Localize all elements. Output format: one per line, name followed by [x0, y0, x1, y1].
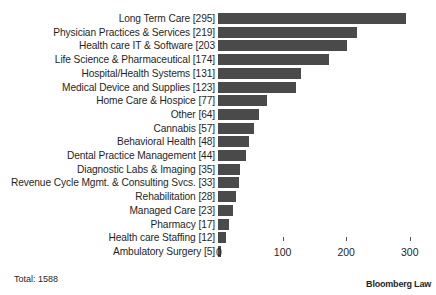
category-label: Revenue Cycle Mgmt. & Consulting Svcs. […	[11, 176, 215, 189]
x-axis-tick-label: 300	[401, 246, 419, 258]
bar	[218, 123, 254, 134]
bar-row: Physician Practices & Services [219]	[0, 27, 436, 38]
bar-row: Dental Practice Management [44]	[0, 150, 436, 161]
category-label: Dental Practice Management [44]	[67, 149, 215, 162]
bar-row: Managed Care [23]	[0, 205, 436, 216]
bar	[218, 219, 229, 230]
category-label: Health care Staffing [12]	[108, 231, 215, 244]
bar	[218, 82, 296, 93]
category-label: Life Science & Pharmaceutical [174]	[55, 53, 215, 66]
bar	[218, 191, 236, 202]
category-label: Pharmacy [17]	[151, 218, 215, 231]
category-label: Long Term Care [295]	[119, 12, 215, 25]
bar	[218, 150, 246, 161]
category-label: Behavioral Health [48]	[117, 135, 215, 148]
bar-row: Home Care & Hospice [77]	[0, 95, 436, 106]
bar-chart: Long Term Care [295]Physician Practices …	[0, 0, 436, 295]
bar-row: Other [64]	[0, 109, 436, 120]
x-axis-tick-label: 100	[274, 246, 292, 258]
bar	[218, 164, 240, 175]
bar	[218, 54, 329, 65]
bar	[218, 232, 226, 243]
category-label: Diagnostic Labs & Imaging [35]	[77, 163, 215, 176]
bar	[218, 109, 259, 120]
total-count: Total: 1588	[14, 274, 58, 284]
category-label: Hospital/Health Systems [131]	[81, 67, 215, 80]
category-label: Ambulatory Surgery [5]	[113, 245, 215, 258]
category-label: Medical Device and Supplies [123]	[62, 81, 215, 94]
bar	[218, 177, 239, 188]
x-axis-tick-label: 0	[216, 246, 222, 258]
bar-row: Health care IT & Software [203	[0, 40, 436, 51]
category-label: Managed Care [23]	[129, 204, 215, 217]
bar	[218, 68, 301, 79]
category-label: Physician Practices & Services [219]	[53, 26, 215, 39]
x-axis-tick	[410, 237, 411, 241]
bar	[218, 95, 267, 106]
bar-row: Behavioral Health [48]	[0, 136, 436, 147]
bar-row: Rehabilitation [28]	[0, 191, 436, 202]
bar	[218, 205, 233, 216]
bar	[218, 40, 347, 51]
bar-row: Revenue Cycle Mgmt. & Consulting Svcs. […	[0, 177, 436, 188]
category-label: Health care IT & Software [203	[79, 39, 215, 52]
category-label: Other [64]	[171, 108, 215, 121]
bar-row: Cannabis [57]	[0, 123, 436, 134]
bar-row: Medical Device and Supplies [123]	[0, 82, 436, 93]
bar-row: Health care Staffing [12]	[0, 232, 436, 243]
bar	[218, 13, 406, 24]
bar-row: Pharmacy [17]	[0, 219, 436, 230]
bar-row: Hospital/Health Systems [131]	[0, 68, 436, 79]
x-axis-tick-label: 200	[337, 246, 355, 258]
bar-row: Long Term Care [295]	[0, 13, 436, 24]
bar-row: Diagnostic Labs & Imaging [35]	[0, 164, 436, 175]
category-label: Rehabilitation [28]	[135, 190, 215, 203]
bar	[218, 27, 357, 38]
source-credit: Bloomberg Law	[366, 279, 431, 289]
category-label: Home Care & Hospice [77]	[96, 94, 215, 107]
x-axis-tick	[283, 237, 284, 241]
x-axis-tick	[346, 237, 347, 241]
bar-row: Life Science & Pharmaceutical [174]	[0, 54, 436, 65]
category-label: Cannabis [57]	[153, 122, 215, 135]
bar	[218, 136, 249, 147]
